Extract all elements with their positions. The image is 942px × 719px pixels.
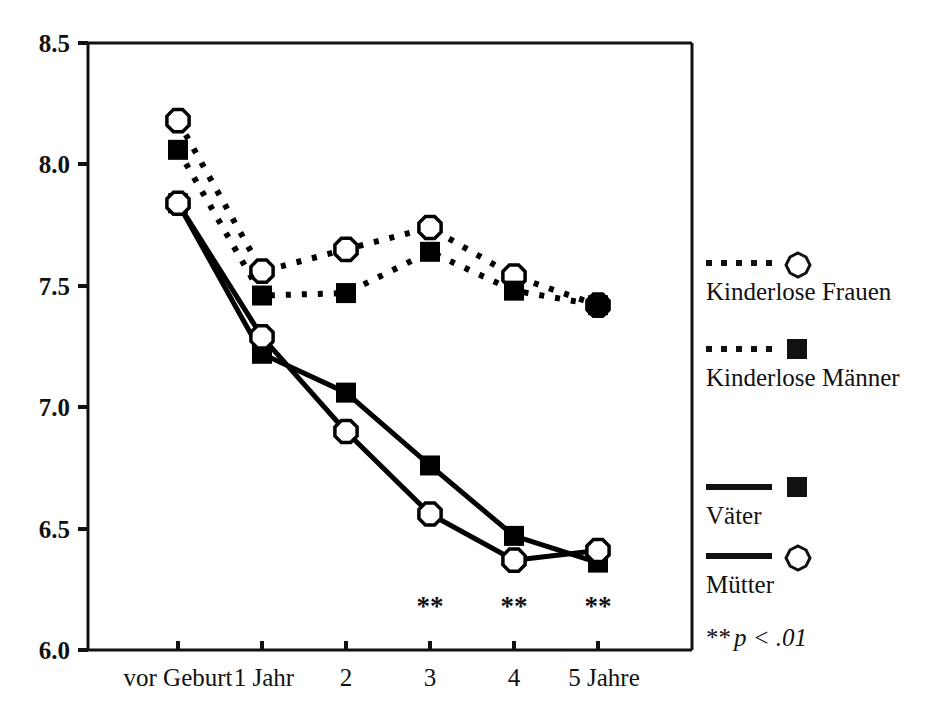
data-point-circle [251, 326, 273, 348]
x-tick-label-1-jahr: 1 Jahr [234, 664, 295, 691]
legend-item-kinderlose-frauen: Kinderlose Frauen [706, 253, 892, 305]
data-point-square [504, 281, 524, 301]
data-point-circle [335, 420, 357, 442]
data-point-circle [167, 110, 189, 132]
significance-mark-year5: ** [585, 591, 612, 621]
legend-item-muetter: Mütter [706, 546, 810, 598]
chart-figure: 8.5 8.0 7.5 7.0 6.5 6.0 vor Geburt 1 Jah… [0, 0, 942, 719]
legend-footnote: ** p < .01 [706, 624, 807, 651]
data-point-square [336, 283, 356, 303]
chart-legend: Kinderlose Frauen Kinderlose Männer Väte… [706, 253, 900, 651]
legend-item-vaeter: Väter [706, 477, 807, 529]
x-tick-label-2: 2 [340, 664, 353, 691]
data-point-square [168, 140, 188, 160]
y-tick-label: 6.5 [39, 516, 70, 543]
significance-mark-year3: ** [417, 591, 444, 621]
data-point-circle [503, 549, 525, 571]
y-tick-label: 8.0 [39, 151, 70, 178]
significance-annotations: ** ** ** [417, 591, 612, 621]
footnote-stars: ** [706, 624, 731, 651]
x-tick-label-vor-geburt: vor Geburt [124, 664, 233, 691]
data-point-square [420, 242, 440, 262]
line-chart-svg: 8.5 8.0 7.5 7.0 6.5 6.0 vor Geburt 1 Jah… [0, 0, 942, 719]
data-point-circle [419, 503, 441, 525]
series-line [178, 121, 598, 306]
legend-marker-filled-square [787, 339, 807, 359]
y-tick-label: 8.5 [39, 30, 70, 57]
legend-label-kinderlose-maenner: Kinderlose Männer [706, 364, 900, 391]
series-kinderlose-frauen [167, 110, 609, 317]
data-point-circle [335, 238, 357, 260]
data-point-circle [587, 539, 609, 561]
data-point-square [336, 383, 356, 403]
x-tick-label-3: 3 [424, 664, 437, 691]
legend-marker-filled-square [787, 477, 807, 497]
data-point-square [588, 295, 608, 315]
series-line [178, 203, 598, 562]
data-point-circle [419, 216, 441, 238]
y-axis-tick-labels: 8.5 8.0 7.5 7.0 6.5 6.0 [39, 30, 70, 664]
legend-marker-open-circle [786, 546, 810, 570]
significance-mark-year4: ** [501, 591, 528, 621]
data-point-square [420, 455, 440, 475]
data-point-square [252, 286, 272, 306]
x-tick-label-5-jahre: 5 Jahre [568, 664, 640, 691]
data-point-circle [167, 192, 189, 214]
legend-label-kinderlose-frauen: Kinderlose Frauen [706, 278, 892, 305]
legend-label-muetter: Mütter [706, 571, 775, 598]
legend-item-kinderlose-maenner: Kinderlose Männer [706, 339, 900, 391]
data-point-square [504, 526, 524, 546]
x-axis-tick-labels: vor Geburt 1 Jahr 2 3 4 5 Jahre [124, 664, 640, 691]
x-tick-label-4: 4 [508, 664, 521, 691]
series-line [178, 203, 598, 560]
footnote-text: p < .01 [732, 624, 807, 651]
legend-marker-open-circle [786, 253, 810, 277]
y-tick-label: 7.5 [39, 273, 70, 300]
legend-label-vaeter: Väter [706, 502, 762, 529]
y-tick-label: 7.0 [39, 394, 70, 421]
data-point-circle [251, 260, 273, 282]
data-series-layer [167, 110, 609, 573]
y-tick-label: 6.0 [39, 637, 70, 664]
